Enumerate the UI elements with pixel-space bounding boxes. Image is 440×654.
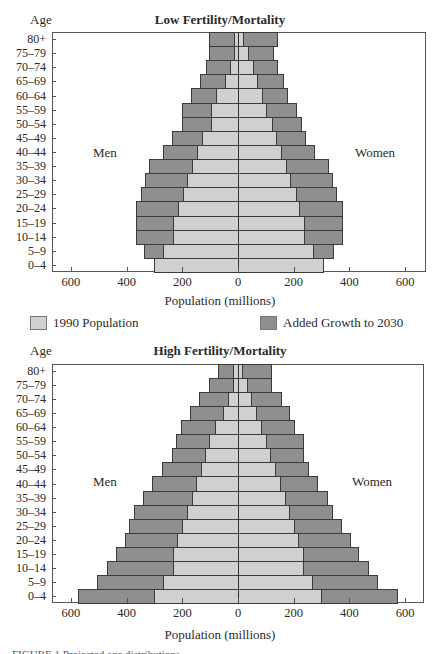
x-tick-label: 400	[107, 606, 147, 621]
bar-men-1990	[154, 589, 239, 604]
women-label: Women	[352, 474, 392, 490]
bar-women-added-growth	[294, 519, 342, 534]
bar-women-added-growth	[303, 561, 369, 576]
bar-men-1990	[215, 420, 239, 435]
bar-women-1990	[238, 561, 304, 576]
bar-men-1990	[163, 575, 239, 590]
bar-men-added-growth	[181, 420, 216, 435]
bar-women-1990	[238, 420, 262, 435]
x-tick-label: 200	[274, 606, 314, 621]
bar-women-1990	[238, 434, 267, 449]
bar-women-1990	[238, 589, 322, 604]
y-tick	[52, 512, 56, 513]
bar-women-1990	[238, 406, 257, 421]
bar-men-1990	[205, 448, 239, 463]
age-group-label: 5–9	[2, 575, 46, 589]
y-tick	[52, 568, 56, 569]
bar-men-added-growth	[143, 491, 193, 506]
x-tick	[294, 598, 295, 603]
y-tick	[52, 484, 56, 485]
age-group-label: 25–29	[2, 519, 46, 533]
x-tick-label: 200	[162, 606, 202, 621]
x-axis-label: Population (millions)	[0, 627, 440, 643]
x-tick	[182, 598, 183, 603]
bar-men-added-growth	[116, 547, 174, 562]
bar-men-1990	[192, 491, 239, 506]
y-tick	[52, 540, 56, 541]
bar-women-1990	[238, 392, 252, 407]
chart-title: High Fertility/Mortality	[0, 343, 440, 359]
bar-women-added-growth	[298, 533, 351, 548]
figure-caption: FIGURE 1 Projected age distributions	[12, 648, 180, 654]
x-tick	[71, 598, 72, 603]
y-tick	[52, 455, 56, 456]
y-tick	[52, 371, 56, 372]
y-tick	[52, 469, 56, 470]
age-group-label: 20–24	[2, 533, 46, 547]
age-group-label: 65–69	[2, 406, 46, 420]
y-tick	[52, 441, 56, 442]
bar-men-1990	[209, 434, 239, 449]
bar-women-added-growth	[256, 406, 290, 421]
bar-women-1990	[238, 491, 286, 506]
bar-men-added-growth	[199, 392, 229, 407]
bar-women-added-growth	[285, 491, 328, 506]
bar-women-added-growth	[321, 589, 398, 604]
bar-women-added-growth	[266, 434, 304, 449]
bar-women-added-growth	[261, 420, 295, 435]
bar-men-added-growth	[218, 364, 234, 379]
bar-men-added-growth	[162, 462, 202, 477]
age-group-label: 80+	[2, 364, 46, 378]
x-tick	[349, 598, 350, 603]
bar-men-1990	[173, 561, 239, 576]
bar-women-1990	[238, 448, 271, 463]
y-tick	[52, 413, 56, 414]
y-tick	[52, 385, 56, 386]
x-tick-label: 400	[329, 606, 369, 621]
bar-men-added-growth	[176, 434, 210, 449]
bar-women-added-growth	[247, 378, 272, 393]
bar-men-added-growth	[125, 533, 178, 548]
age-group-label: 70–74	[2, 392, 46, 406]
bar-men-added-growth	[129, 519, 183, 534]
age-group-label: 60–64	[2, 420, 46, 434]
bar-women-added-growth	[289, 505, 333, 520]
x-tick	[405, 598, 406, 603]
bar-men-added-growth	[134, 505, 188, 520]
bar-men-added-growth	[190, 406, 224, 421]
age-group-label: 35–39	[2, 491, 46, 505]
bar-women-1990	[238, 462, 276, 477]
bar-men-added-growth	[152, 476, 197, 491]
zero-axis-line	[238, 364, 239, 603]
bar-men-added-growth	[172, 448, 206, 463]
y-tick	[52, 498, 56, 499]
bar-men-1990	[201, 462, 239, 477]
y-tick	[52, 582, 56, 583]
bar-men-added-growth	[209, 378, 234, 393]
bar-men-1990	[182, 519, 239, 534]
x-tick-label: 0	[218, 606, 258, 621]
bar-men-1990	[223, 406, 239, 421]
bar-women-1990	[238, 505, 290, 520]
bar-women-added-growth	[312, 575, 378, 590]
y-tick	[52, 596, 56, 597]
age-group-label: 45–49	[2, 462, 46, 476]
y-tick	[52, 399, 56, 400]
bar-women-added-growth	[242, 364, 272, 379]
bar-women-1990	[238, 533, 299, 548]
age-group-label: 50–54	[2, 448, 46, 462]
bar-men-1990	[187, 505, 239, 520]
bar-men-1990	[177, 533, 239, 548]
age-group-label: 75–79	[2, 378, 46, 392]
age-group-label: 15–19	[2, 547, 46, 561]
bar-men-1990	[196, 476, 239, 491]
bar-women-added-growth	[275, 462, 309, 477]
bar-women-added-growth	[270, 448, 304, 463]
x-tick	[127, 598, 128, 603]
bar-women-1990	[238, 476, 281, 491]
x-tick-label: 600	[51, 606, 91, 621]
x-tick-label: 600	[385, 606, 425, 621]
bar-women-1990	[238, 575, 313, 590]
bar-women-added-growth	[251, 392, 282, 407]
bar-men-added-growth	[78, 589, 155, 604]
